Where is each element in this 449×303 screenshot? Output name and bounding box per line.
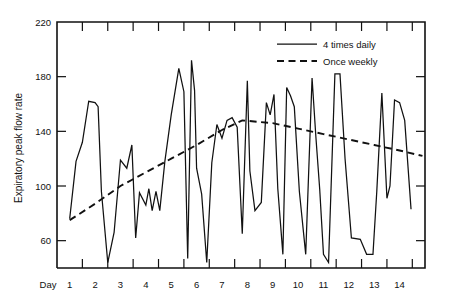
chart-container: 60100140180220 1234567891011121314 Expir… — [0, 0, 449, 303]
x-axis-day-prefix: Day — [40, 279, 57, 290]
x-tick-label-day-1: 1 — [67, 279, 72, 290]
x-tick-label-day-4: 4 — [143, 279, 148, 290]
y-tick-label-60: 60 — [40, 235, 51, 246]
x-tick-label-day-14: 14 — [394, 279, 405, 290]
x-tick-label-day-2: 2 — [92, 279, 97, 290]
x-tick-label-day-11: 11 — [319, 279, 329, 290]
x-tick-label-day-6: 6 — [194, 279, 199, 290]
expiratory-peak-flow-chart: 60100140180220 1234567891011121314 Expir… — [0, 0, 449, 303]
x-tick-label-day-9: 9 — [270, 279, 275, 290]
legend-label-4-times-daily: 4 times daily — [323, 39, 376, 50]
y-tick-label-220: 220 — [35, 17, 51, 28]
y-tick-label-180: 180 — [35, 71, 51, 82]
x-tick-label-day-3: 3 — [118, 279, 123, 290]
chart-background — [0, 0, 449, 303]
x-tick-label-day-7: 7 — [219, 279, 224, 290]
x-tick-label-day-8: 8 — [245, 279, 250, 290]
x-tick-label-day-12: 12 — [344, 279, 355, 290]
y-tick-label-140: 140 — [35, 126, 51, 137]
x-tick-label-day-5: 5 — [169, 279, 174, 290]
x-tick-label-day-13: 13 — [369, 279, 380, 290]
legend-label-once-weekly: Once weekly — [323, 56, 378, 67]
y-tick-label-100: 100 — [35, 181, 51, 192]
y-axis-title: Expiratory peak flow rate — [13, 93, 24, 203]
x-tick-label-day-10: 10 — [293, 279, 304, 290]
